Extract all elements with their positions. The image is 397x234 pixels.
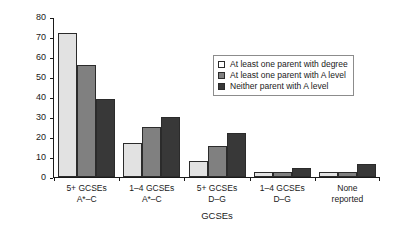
x-tick-label-line2: reported xyxy=(315,194,380,205)
legend-label: Neither parent with A level xyxy=(230,81,328,92)
x-tick-mark xyxy=(54,177,55,181)
x-tick-mark xyxy=(250,177,251,181)
y-tick-label: 70 xyxy=(36,32,46,43)
bar[interactable] xyxy=(58,33,77,177)
y-tick-mark xyxy=(50,138,53,139)
y-tick-label: 0 xyxy=(41,172,46,183)
x-tick-mark xyxy=(379,177,380,181)
y-tick-mark xyxy=(50,58,53,59)
y-tick-mark xyxy=(50,98,53,99)
x-tick-label: Nonereported xyxy=(315,183,380,204)
y-tick-label: 60 xyxy=(36,52,46,63)
bar[interactable] xyxy=(319,172,338,177)
x-axis-line xyxy=(53,177,380,178)
legend-swatch-icon xyxy=(218,61,225,68)
bar-group xyxy=(184,18,249,177)
bar[interactable] xyxy=(161,117,180,177)
x-tick-label-line1: 5+ GCSEs xyxy=(66,183,106,193)
bar[interactable] xyxy=(292,168,311,177)
y-tick-label: 80 xyxy=(36,12,46,23)
legend-item[interactable]: At least one parent with degree xyxy=(218,59,348,70)
bar-groups xyxy=(54,18,380,177)
y-tick: 50 xyxy=(25,78,53,79)
legend-label: At least one parent with A level xyxy=(230,70,346,81)
bar[interactable] xyxy=(123,143,142,177)
x-tick-label-line1: 1–4 GCSEs xyxy=(129,183,174,193)
y-tick-mark xyxy=(50,18,53,19)
y-tick: 0 xyxy=(25,178,53,179)
legend-item[interactable]: At least one parent with A level xyxy=(218,70,348,81)
bar-group xyxy=(315,18,380,177)
legend-item[interactable]: Neither parent with A level xyxy=(218,81,348,92)
x-tick-label-line2: A*–C xyxy=(119,194,184,205)
plot-area: 01020304050607080 xyxy=(53,18,380,178)
y-tick: 40 xyxy=(25,98,53,99)
x-tick-label-line1: 5+ GCSEs xyxy=(197,183,237,193)
x-tick-mark xyxy=(119,177,120,181)
bar[interactable] xyxy=(227,133,246,177)
bar[interactable] xyxy=(273,172,292,177)
x-tick-label-line2: D–G xyxy=(250,194,315,205)
bar[interactable] xyxy=(338,172,357,177)
bar-group xyxy=(119,18,184,177)
y-tick-mark xyxy=(50,118,53,119)
y-tick-mark xyxy=(50,178,53,179)
y-tick: 30 xyxy=(25,118,53,119)
bar[interactable] xyxy=(189,161,208,177)
bar[interactable] xyxy=(142,127,161,177)
x-tick-label: 5+ GCSEsA*–C xyxy=(54,183,119,204)
y-tick: 70 xyxy=(25,38,53,39)
x-axis-tick-labels: 5+ GCSEsA*–C1–4 GCSEsA*–C5+ GCSEsD–G1–4 … xyxy=(54,183,380,204)
x-axis-title: GCSEs xyxy=(54,210,380,221)
y-tick-mark xyxy=(50,78,53,79)
x-tick-label-line1: 1–4 GCSEs xyxy=(260,183,305,193)
y-tick: 10 xyxy=(25,158,53,159)
bar-group xyxy=(54,18,119,177)
legend-label: At least one parent with degree xyxy=(230,59,348,70)
x-tick-mark xyxy=(184,177,185,181)
legend-swatch-icon xyxy=(218,72,225,79)
x-tick-label-line1: None xyxy=(337,183,357,193)
bar[interactable] xyxy=(96,99,115,177)
x-tick-label-line2: D–G xyxy=(184,194,249,205)
x-tick-label: 1–4 GCSEsD–G xyxy=(250,183,315,204)
bar-chart: Percentage 01020304050607080 5+ GCSEsA*–… xyxy=(0,0,397,234)
y-tick-mark xyxy=(50,38,53,39)
y-tick-label: 10 xyxy=(36,152,46,163)
y-tick-label: 30 xyxy=(36,112,46,123)
bar[interactable] xyxy=(77,65,96,177)
legend-swatch-icon xyxy=(218,83,225,90)
chart-legend: At least one parent with degreeAt least … xyxy=(213,55,354,96)
x-tick-label: 1–4 GCSEsA*–C xyxy=(119,183,184,204)
y-tick: 80 xyxy=(25,18,53,19)
bar[interactable] xyxy=(357,164,376,177)
bar-group xyxy=(250,18,315,177)
y-tick-mark xyxy=(50,158,53,159)
y-tick-label: 20 xyxy=(36,132,46,143)
bar[interactable] xyxy=(254,172,273,177)
x-tick-label: 5+ GCSEsD–G xyxy=(184,183,249,204)
y-tick-label: 40 xyxy=(36,92,46,103)
x-tick-mark xyxy=(315,177,316,181)
y-tick: 20 xyxy=(25,138,53,139)
y-tick-label: 50 xyxy=(36,72,46,83)
y-tick: 60 xyxy=(25,58,53,59)
bar[interactable] xyxy=(208,146,227,177)
x-tick-label-line2: A*–C xyxy=(54,194,119,205)
